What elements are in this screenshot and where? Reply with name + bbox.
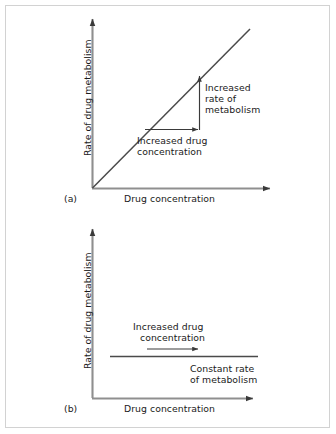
panel-b: Rate of drug metabolism Drug concentrati… — [0, 217, 336, 434]
panel-a-tag: (a) — [64, 193, 77, 204]
annotation-line-2: concentration — [140, 332, 205, 343]
panel-a-x-axis-label: Drug concentration — [124, 193, 215, 204]
panel-b-y-axis-label: Rate of drug metabolism — [82, 252, 93, 369]
figure-root: Rate of drug metabolism Drug concentrati… — [0, 0, 336, 434]
annotation-line-2: rate of — [205, 93, 236, 104]
panel-a-y-axis-label: Rate of drug metabolism — [82, 39, 93, 156]
panel-a: Rate of drug metabolism Drug concentrati… — [0, 0, 336, 217]
annotation-line-2: concentration — [137, 146, 202, 157]
panel-b-tag: (b) — [64, 403, 77, 414]
annotation-line-1: Increased — [205, 82, 251, 93]
annotation-line-1: Constant rate — [190, 363, 254, 374]
panel-a-graphics — [0, 0, 336, 217]
annotation-line-1: Increased drug — [133, 321, 203, 332]
annotation-line-3: metabolism — [205, 104, 260, 115]
annotation-line-1: Increased drug — [137, 135, 207, 146]
annotation-line-2: of metabolism — [190, 374, 257, 385]
panel-b-x-axis-label: Drug concentration — [124, 403, 215, 414]
